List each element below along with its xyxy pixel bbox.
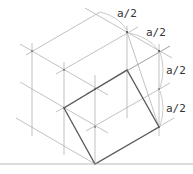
label-a-half-3: a/2 [166, 64, 186, 77]
vertex-dots [31, 31, 160, 128]
label-a-half-2: a/2 [146, 26, 166, 39]
label-a-half-4: a/2 [166, 102, 186, 115]
diagram-canvas: a/2 a/2 a/2 a/2 [0, 0, 193, 174]
label-a-half-1: a/2 [117, 7, 137, 20]
